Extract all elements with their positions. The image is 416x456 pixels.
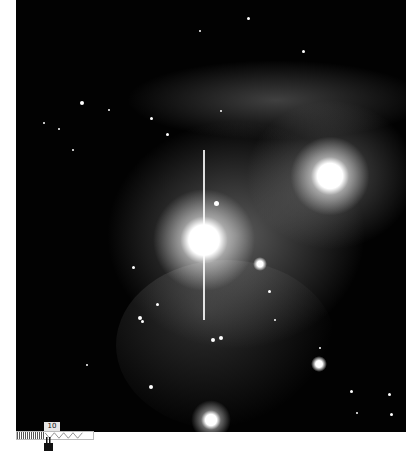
- scale-bar: [16, 431, 94, 440]
- star: [86, 364, 88, 366]
- star-halo-mid: [253, 257, 267, 271]
- star: [388, 393, 391, 396]
- star: [156, 303, 159, 306]
- star: [302, 50, 305, 53]
- star-halo-bottom: [191, 400, 231, 432]
- star-halo-right: [285, 131, 375, 221]
- scale-marker-icon: [43, 437, 54, 452]
- star: [58, 128, 60, 130]
- star: [108, 109, 110, 111]
- star: [214, 201, 219, 206]
- scale-label: 10: [44, 422, 60, 431]
- astronomical-image: [16, 0, 406, 432]
- star: [132, 266, 135, 269]
- star: [319, 347, 321, 349]
- star: [356, 412, 358, 414]
- star: [274, 319, 276, 321]
- star: [43, 122, 45, 124]
- diffraction-spike: [203, 150, 205, 320]
- star: [390, 413, 393, 416]
- star: [199, 30, 201, 32]
- star: [149, 385, 153, 389]
- star: [268, 290, 271, 293]
- star: [219, 336, 223, 340]
- star: [247, 17, 250, 20]
- star: [350, 390, 353, 393]
- star: [80, 101, 84, 105]
- star: [72, 149, 74, 151]
- star: [150, 117, 153, 120]
- star: [211, 338, 215, 342]
- star: [141, 320, 144, 323]
- scale-bar-dense-ticks: [17, 432, 45, 439]
- star-halo-lower-right: [311, 356, 327, 372]
- star: [220, 110, 222, 112]
- star: [166, 133, 169, 136]
